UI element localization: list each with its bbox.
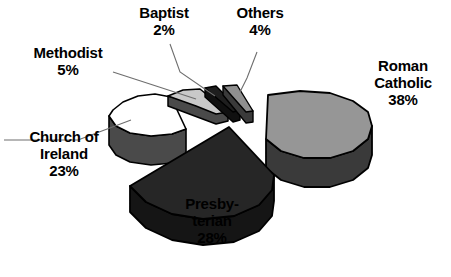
label-others: Others 4% bbox=[216, 4, 304, 38]
label-methodist-percent: 5% bbox=[8, 61, 128, 78]
label-presbyterian-line1: Presby- bbox=[152, 195, 272, 212]
label-church-of-ireland-percent: 23% bbox=[4, 162, 124, 179]
leader-line-others bbox=[240, 52, 257, 92]
label-baptist-percent: 2% bbox=[118, 21, 210, 38]
pie-chart-figure: Baptist 2% Others 4% Methodist 5% Roman … bbox=[0, 0, 451, 277]
label-presbyterian-line2: terian bbox=[152, 212, 272, 229]
label-roman-catholic-percent: 38% bbox=[358, 91, 448, 108]
label-church-of-ireland: Church of Ireland 23% bbox=[4, 128, 124, 179]
label-presbyterian: Presby- terian 28% bbox=[152, 195, 272, 246]
label-roman-catholic: Roman Catholic 38% bbox=[358, 57, 448, 108]
label-presbyterian-percent: 28% bbox=[152, 229, 272, 246]
label-baptist-name: Baptist bbox=[118, 4, 210, 21]
label-roman-catholic-line1: Roman bbox=[358, 57, 448, 74]
label-methodist: Methodist 5% bbox=[8, 44, 128, 78]
label-church-of-ireland-line2: Ireland bbox=[4, 145, 124, 162]
slice-roman-catholic-top bbox=[266, 91, 372, 158]
label-methodist-name: Methodist bbox=[8, 44, 128, 61]
label-others-name: Others bbox=[216, 4, 304, 21]
label-roman-catholic-line2: Catholic bbox=[358, 74, 448, 91]
label-baptist: Baptist 2% bbox=[118, 4, 210, 38]
label-church-of-ireland-line1: Church of bbox=[4, 128, 124, 145]
label-others-percent: 4% bbox=[216, 21, 304, 38]
slice-roman-catholic[interactable] bbox=[266, 91, 372, 187]
